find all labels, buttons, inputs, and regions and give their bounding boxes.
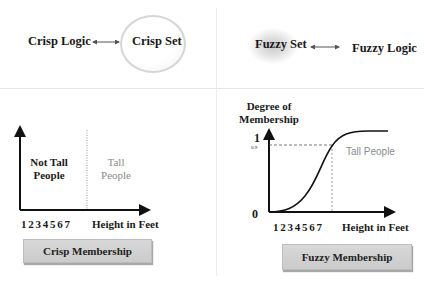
crisp-membership-button[interactable]: Crisp Membership [23,239,152,263]
fuzzy-membership-button[interactable]: Fuzzy Membership [282,244,412,270]
y-tick-0: 0 [252,207,258,222]
crisp-x-axis-label: Height in Feet [92,218,159,231]
not-tall-people-label: Not Tall People [24,156,74,182]
curve-tall-people-label: Tall People [346,146,395,157]
fuzzy-x-ticks: 1 2 3 4 5 6 7 [273,221,322,234]
y-label-line1: Degree of [238,100,300,113]
y-label-line2: Membership [238,113,300,126]
fuzzy-membership-curve [269,131,388,212]
y-tick-1: 1 [254,131,260,146]
y-tick-0-9: 0.9 [251,145,257,150]
fuzzy-x-axis-label: Height in Feet [342,221,409,234]
fuzzy-chart-axes [269,130,394,212]
crisp-x-ticks: 1 2 3 4 5 6 7 [21,218,70,231]
tall-people-label: Tall People [92,156,140,182]
degree-of-membership-label: Degree of Membership [238,100,300,126]
